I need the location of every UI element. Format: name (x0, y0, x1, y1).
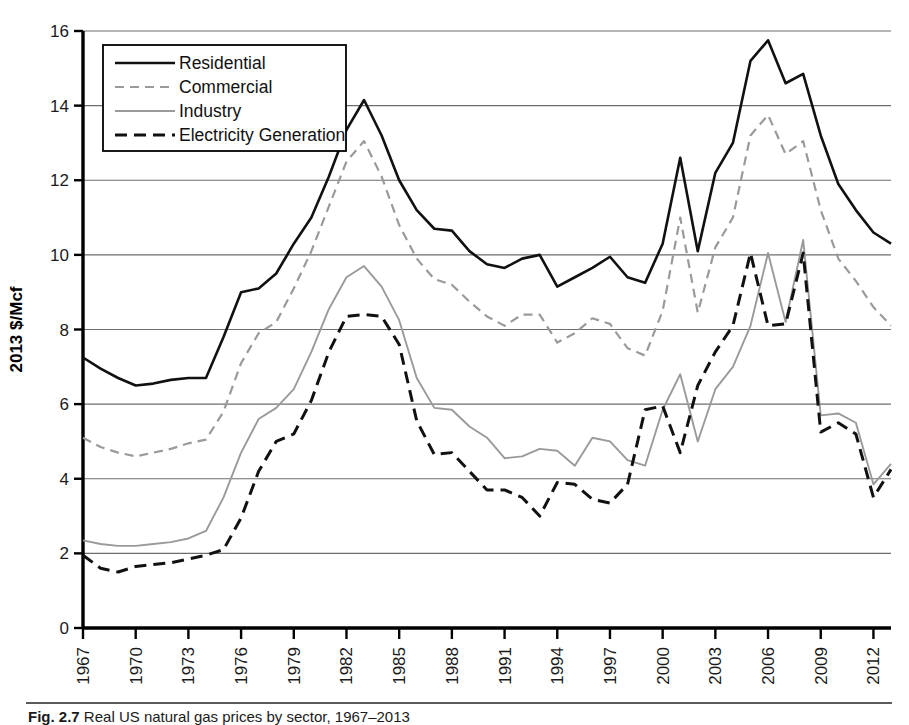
legend-label-commercial: Commercial (179, 77, 272, 97)
legend-label-residential: Residential (179, 53, 266, 73)
legend: ResidentialCommercialIndustryElectricity… (103, 45, 346, 151)
y-tick-label: 6 (60, 395, 69, 414)
line-chart: 0246810121416196719701973197619791982198… (0, 0, 909, 700)
y-tick-label: 12 (50, 171, 69, 190)
y-tick-label: 10 (50, 246, 69, 265)
x-tick-label: 1994 (548, 647, 567, 685)
x-tick-label: 2003 (706, 647, 725, 685)
y-axis-title: 2013 $/Mcf (7, 286, 26, 372)
y-tick-label: 14 (50, 97, 69, 116)
legend-label-electricity-generation: Electricity Generation (179, 125, 345, 145)
series-line-industry (83, 240, 891, 546)
y-tick-label: 2 (60, 544, 69, 563)
x-tick-label: 2006 (759, 647, 778, 685)
x-tick-label: 1991 (496, 647, 515, 685)
caption-divider (26, 702, 892, 704)
series-line-commercial (83, 115, 891, 456)
x-tick-label: 1985 (390, 647, 409, 685)
x-tick-label: 1970 (127, 647, 146, 685)
x-tick-label: 2012 (864, 647, 883, 685)
caption-text: Real US natural gas prices by sector, 19… (84, 708, 410, 725)
x-tick-label: 1979 (285, 647, 304, 685)
caption-figure-number: Fig. 2.7 (28, 708, 80, 725)
y-tick-label: 8 (60, 321, 69, 340)
x-tick-label: 1982 (337, 647, 356, 685)
x-tick-label: 1976 (232, 647, 251, 685)
legend-label-industry: Industry (179, 101, 241, 121)
y-tick-label: 4 (60, 470, 69, 489)
y-tick-label: 16 (50, 22, 69, 41)
x-tick-label: 2009 (812, 647, 831, 685)
y-tick-label: 0 (60, 619, 69, 638)
x-tick-label: 2000 (654, 647, 673, 685)
x-tick-label: 1973 (179, 647, 198, 685)
x-tick-label: 1988 (443, 647, 462, 685)
x-tick-label: 1967 (74, 647, 93, 685)
series-line-electricity-generation (83, 253, 891, 572)
x-tick-label: 1997 (601, 647, 620, 685)
figure-caption: Fig. 2.7 Real US natural gas prices by s… (28, 708, 898, 725)
